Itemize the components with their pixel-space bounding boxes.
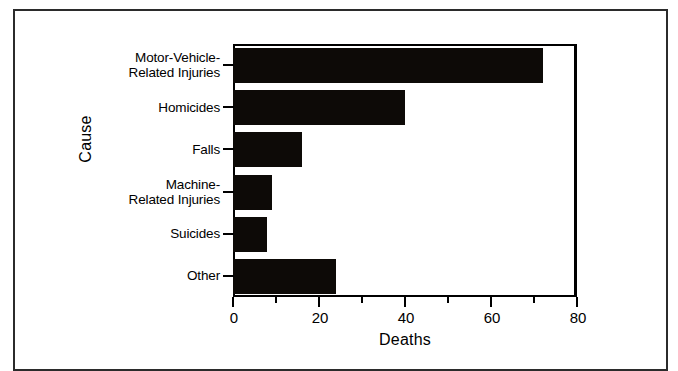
x-axis-tick-minor bbox=[447, 297, 449, 303]
bar bbox=[233, 48, 543, 83]
y-axis-tick bbox=[223, 106, 234, 108]
x-axis-tick-label: 0 bbox=[214, 309, 254, 326]
y-axis-label: Other bbox=[0, 256, 224, 296]
x-axis-tick-label: 20 bbox=[300, 309, 340, 326]
x-axis-tick-major bbox=[232, 297, 234, 307]
y-axis-label-text: Falls bbox=[4, 142, 224, 157]
bars-layer bbox=[233, 44, 577, 297]
bar bbox=[233, 175, 272, 210]
bar bbox=[233, 90, 405, 125]
y-axis-label-text: Motor-Vehicle- Related Injuries bbox=[4, 50, 224, 80]
y-axis-tick bbox=[223, 64, 234, 66]
x-axis-tick-label: 60 bbox=[472, 309, 512, 326]
y-axis-label: Suicides bbox=[0, 214, 224, 254]
y-axis-label-text: Homicides bbox=[4, 100, 224, 115]
x-axis-tick-minor bbox=[275, 297, 277, 303]
x-axis-tick-label: 40 bbox=[386, 309, 426, 326]
x-axis-tick-minor bbox=[361, 297, 363, 303]
y-axis-label-text: Other bbox=[4, 268, 224, 283]
y-axis-tick bbox=[223, 275, 234, 277]
bar bbox=[233, 259, 336, 294]
x-axis-tick-label: 80 bbox=[558, 309, 598, 326]
x-axis-tick-major bbox=[318, 297, 320, 307]
x-axis-tick-major bbox=[490, 297, 492, 307]
y-axis-label: Homicides bbox=[0, 87, 224, 127]
y-axis-tick bbox=[223, 148, 234, 150]
y-axis-label: Motor-Vehicle- Related Injuries bbox=[0, 45, 224, 85]
x-axis-tick-major bbox=[576, 297, 578, 307]
x-axis-title: Deaths bbox=[233, 331, 577, 349]
y-axis-label-text: Machine- Related Injuries bbox=[4, 177, 224, 207]
x-axis-tick-minor bbox=[533, 297, 535, 303]
y-axis-tick bbox=[223, 233, 234, 235]
bar bbox=[233, 217, 267, 252]
y-axis-label: Machine- Related Injuries bbox=[0, 172, 224, 212]
y-axis-title: Cause bbox=[77, 94, 95, 184]
y-axis-label-text: Suicides bbox=[4, 226, 224, 241]
y-axis-label: Falls bbox=[0, 129, 224, 169]
y-axis-tick bbox=[223, 191, 234, 193]
bar bbox=[233, 132, 302, 167]
x-axis-tick-major bbox=[404, 297, 406, 307]
